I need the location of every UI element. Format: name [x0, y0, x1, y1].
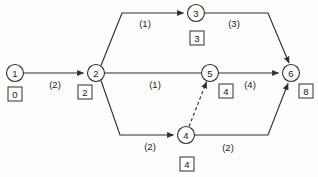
edge-weight-4-6: (2) — [222, 142, 234, 153]
node-5: 5 — [202, 65, 219, 82]
node-2-box: 2 — [78, 85, 92, 99]
edge-3-to-6 — [205, 13, 290, 63]
node-3-label: 3 — [193, 8, 198, 19]
node-4-box: 4 — [180, 157, 194, 171]
edge-weight-2-3: (1) — [139, 18, 151, 29]
edge-weight-5-6: (4) — [244, 79, 256, 90]
node-6-label: 6 — [288, 68, 293, 79]
node-5-label: 5 — [207, 68, 212, 79]
node-box-layer: 0 2 3 4 4 8 — [8, 31, 313, 171]
edge-4-to-5-dummy — [189, 82, 207, 127]
edge-layer — [24, 13, 289, 135]
node-4: 4 — [178, 127, 195, 144]
edge-2-to-4 — [101, 81, 174, 136]
node-1-box: 0 — [8, 87, 22, 101]
edge-weight-2-5: (1) — [149, 79, 161, 90]
node-1-box-label: 0 — [12, 89, 17, 100]
node-3-box-label: 3 — [194, 33, 199, 44]
node-2-box-label: 2 — [82, 87, 87, 98]
node-4-label: 4 — [183, 130, 188, 141]
node-2: 2 — [88, 65, 105, 82]
edge-weight-2-4: (2) — [144, 141, 156, 152]
node-3-box: 3 — [190, 31, 204, 45]
edge-weight-3-6: (3) — [228, 18, 240, 29]
node-2-label: 2 — [93, 68, 98, 79]
network-diagram: (2) (1) (1) (2) (3) (4) (2) 1 2 3 — [0, 0, 318, 177]
node-4-box-label: 4 — [184, 159, 189, 170]
node-6-box: 8 — [299, 84, 313, 98]
node-layer: 1 2 3 4 5 6 — [7, 5, 300, 144]
node-1: 1 — [7, 65, 24, 82]
node-6: 6 — [283, 65, 300, 82]
edge-weight-1-2: (2) — [49, 79, 61, 90]
node-1-label: 1 — [12, 68, 17, 79]
node-5-box: 4 — [219, 84, 233, 98]
edge-4-to-6 — [195, 84, 289, 136]
node-3: 3 — [188, 5, 205, 22]
node-6-box-label: 8 — [303, 86, 308, 97]
node-5-box-label: 4 — [223, 86, 228, 97]
